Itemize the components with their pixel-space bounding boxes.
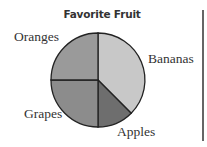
pie-chart bbox=[0, 0, 207, 147]
label-oranges: Oranges bbox=[14, 29, 59, 45]
label-grapes: Grapes bbox=[24, 106, 62, 122]
vertical-divider bbox=[202, 10, 204, 141]
label-bananas: Bananas bbox=[148, 51, 194, 67]
label-apples: Apples bbox=[117, 124, 155, 140]
